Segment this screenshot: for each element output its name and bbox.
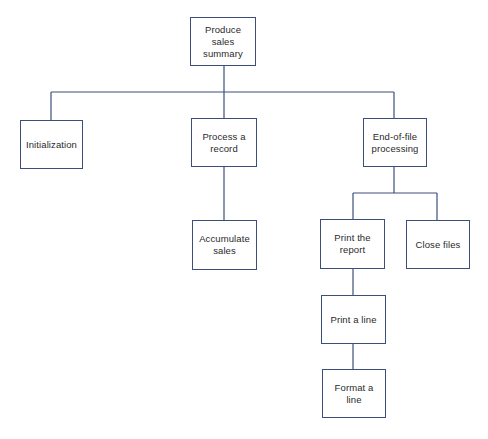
node-label: End-of-file processing	[367, 131, 423, 155]
node-print-a-line: Print a line	[321, 295, 386, 344]
node-format-a-line: Format a line	[322, 369, 386, 418]
node-label: Initialization	[26, 139, 77, 151]
node-close-files: Close files	[406, 220, 470, 269]
node-print-the-report: Print the report	[320, 219, 385, 269]
node-label: Print the report	[324, 232, 381, 256]
hierarchy-diagram: Produce sales summary Initialization Pro…	[0, 0, 488, 439]
node-label: Produce sales summary	[194, 24, 252, 60]
node-label: Print a line	[330, 314, 376, 326]
node-accumulate-sales: Accumulate sales	[192, 220, 257, 270]
node-end-of-file-processing: End-of-file processing	[363, 118, 427, 167]
node-process-a-record: Process a record	[191, 118, 257, 167]
node-initialization: Initialization	[20, 120, 83, 169]
node-label: Process a record	[195, 131, 253, 155]
node-produce-sales-summary: Produce sales summary	[190, 17, 256, 66]
node-label: Accumulate sales	[196, 233, 253, 257]
node-label: Close files	[416, 239, 461, 251]
node-label: Format a line	[326, 382, 382, 406]
